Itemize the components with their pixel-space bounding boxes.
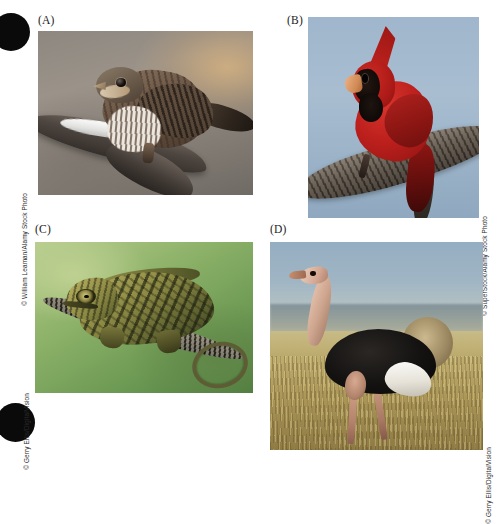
photo-credit-c: © Gerry Ellis/DigitalVision	[24, 393, 30, 470]
figure-panel-c: (C) © Gerry Ellis/DigitalVision	[0, 215, 260, 400]
panel-label-b: (B)	[287, 14, 303, 26]
figure-panel-b: (B) © SuperStock/Alamy Stock Photo	[252, 0, 504, 225]
panel-label-d: (D)	[270, 223, 287, 235]
photo-b-throat	[359, 93, 383, 121]
photo-b-cardinal	[308, 17, 479, 218]
panel-label-c: (C)	[35, 223, 51, 235]
photo-credit-d: © Gerry Ellis/DigitalVision	[486, 447, 492, 524]
photo-c-eye	[76, 289, 95, 305]
photo-d-eye	[310, 271, 316, 276]
photo-d-ostrich	[270, 242, 483, 450]
photo-a-eye	[116, 78, 126, 87]
figure-panel-d: (D) © Gerry Ellis/DigitalVision	[252, 215, 504, 460]
photo-a-sparrow	[38, 31, 253, 195]
figure-panel-a: (A) © William Leaman/Alamy Stock Photo	[0, 0, 260, 205]
panel-label-a: (A)	[38, 14, 55, 26]
photo-c-chameleon	[35, 242, 253, 393]
photo-c-rear-foot	[156, 328, 182, 353]
photo-b-eye	[362, 74, 368, 82]
